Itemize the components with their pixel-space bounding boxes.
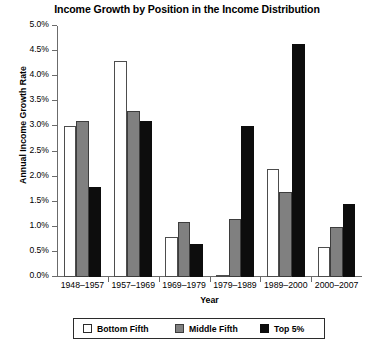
bar-bottom-fifth	[114, 61, 127, 277]
y-axis-tick-label: 4.5%	[29, 44, 49, 54]
bar-top-5	[190, 244, 203, 277]
bar-middle-fifth	[279, 192, 292, 277]
bar-group	[267, 26, 305, 277]
x-axis-tick-label: 1989–2000	[260, 280, 311, 290]
y-axis-tick-label: 1.0%	[29, 220, 49, 230]
bar-top-5	[89, 187, 102, 277]
bar-middle-fifth	[229, 219, 242, 277]
x-axis-tick-label: 1969–1979	[159, 280, 210, 290]
legend-swatch-icon	[83, 324, 92, 333]
y-axis-tick-label: 0.5%	[29, 245, 49, 255]
y-axis-tick-label: 5.0%	[29, 19, 49, 29]
bar-group	[114, 26, 152, 277]
legend-entry[interactable]: Bottom Fifth	[83, 324, 149, 334]
legend-label: Middle Fifth	[189, 324, 238, 334]
bar-middle-fifth	[127, 111, 140, 277]
y-axis-tick-label: 2.5%	[29, 145, 49, 155]
bar-group	[64, 26, 102, 277]
legend-entry[interactable]: Top 5%	[260, 324, 304, 334]
chart-title: Income Growth by Position in the Income …	[0, 3, 374, 16]
bar-bottom-fifth	[64, 126, 77, 277]
y-axis-tick-label: 1.5%	[29, 195, 49, 205]
y-axis-tick: 2.0%	[52, 176, 57, 177]
y-axis-tick: 3.0%	[52, 125, 57, 126]
x-axis-title: Year	[57, 295, 362, 305]
chart-legend: Bottom FifthMiddle FifthTop 5%	[73, 318, 325, 339]
bar-group	[318, 26, 356, 277]
bar-top-5	[241, 126, 254, 277]
y-axis-tick-label: 3.5%	[29, 94, 49, 104]
bar-middle-fifth	[178, 222, 191, 277]
bar-middle-fifth	[330, 227, 343, 277]
legend-label: Top 5%	[274, 324, 304, 334]
legend-swatch-icon	[175, 324, 184, 333]
y-axis-tick: 5.0%	[52, 25, 57, 26]
bar-top-5	[292, 44, 305, 277]
y-axis-tick: 0.5%	[52, 251, 57, 252]
x-axis-tick-label: 1957–1969	[108, 280, 159, 290]
bar-middle-fifth	[76, 121, 89, 277]
y-axis-tick-label: 0.0%	[29, 270, 49, 280]
x-axis-tick-label: 1948–1957	[57, 280, 108, 290]
y-axis-tick: 1.5%	[52, 201, 57, 202]
y-axis-title: Annual Income Growth Rate	[18, 40, 28, 210]
bar-bottom-fifth	[267, 169, 280, 277]
bar-top-5	[343, 204, 356, 277]
y-axis-line	[57, 26, 58, 277]
y-axis-tick-label: 3.0%	[29, 119, 49, 129]
y-axis-tick: 2.5%	[52, 151, 57, 152]
bar-top-5	[140, 121, 153, 277]
bar-chart-figure: Income Growth by Position in the Income …	[0, 0, 374, 352]
legend-swatch-icon	[260, 324, 269, 333]
x-axis-tick-labels: 1948–19571957–19691969–19791979–19891989…	[57, 280, 362, 294]
y-axis-tick: 1.0%	[52, 226, 57, 227]
y-axis-tick-label: 2.0%	[29, 170, 49, 180]
bar-group	[216, 26, 254, 277]
y-axis-tick: 3.5%	[52, 100, 57, 101]
legend-label: Bottom Fifth	[97, 324, 149, 334]
bar-group	[165, 26, 203, 277]
y-axis-tick: 4.5%	[52, 50, 57, 51]
legend-entry[interactable]: Middle Fifth	[175, 324, 238, 334]
y-axis-tick: 0.0%	[52, 276, 57, 277]
y-axis-tick: 4.0%	[52, 75, 57, 76]
x-axis-tick-label: 2000–2007	[311, 280, 362, 290]
x-axis-tick-label: 1979–1989	[210, 280, 261, 290]
plot-area: 0.0%0.5%1.0%1.5%2.0%2.5%3.0%3.5%4.0%4.5%…	[57, 26, 362, 277]
y-axis-tick-label: 4.0%	[29, 69, 49, 79]
bar-bottom-fifth	[165, 237, 178, 277]
bar-bottom-fifth	[318, 247, 331, 277]
bar-bottom-fifth	[216, 275, 229, 278]
